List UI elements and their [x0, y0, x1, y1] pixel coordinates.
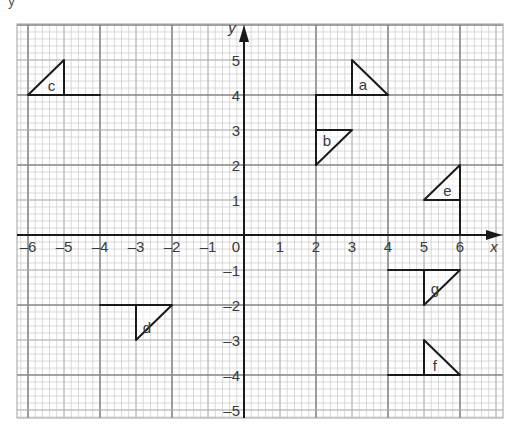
- triangle-outline: [424, 165, 460, 200]
- x-tick-label: –6: [20, 238, 37, 255]
- y-axis-label: y: [227, 19, 237, 36]
- triangle-outline: [424, 270, 460, 305]
- x-tick-label: –5: [56, 238, 73, 255]
- x-tick-label: –2: [164, 238, 181, 255]
- coordinate-grid-diagram: y –6–5–4–3–2–10123456xy12345–1–2–3–4–5 a…: [0, 0, 517, 430]
- y-tick-label: –2: [223, 297, 240, 314]
- x-tick-label: 0: [232, 238, 240, 255]
- triangle-outline: [136, 305, 172, 340]
- triangle-outline: [316, 130, 352, 165]
- y-tick-label: 4: [232, 87, 240, 104]
- triangle-g: g: [388, 270, 460, 305]
- y-tick-label: –4: [223, 367, 240, 384]
- triangle-b: b: [316, 130, 352, 165]
- triangle-label: g: [431, 280, 439, 297]
- triangle-outline: [28, 60, 64, 95]
- triangle-label: a: [359, 76, 368, 93]
- y-axis-arrow-icon: [239, 25, 249, 42]
- x-tick-label: –4: [92, 238, 109, 255]
- x-tick-label: 2: [312, 238, 320, 255]
- x-tick-label: 3: [348, 238, 356, 255]
- y-tick-label: 1: [232, 192, 240, 209]
- triangle-label: b: [323, 132, 331, 149]
- x-tick-label: –3: [128, 238, 145, 255]
- y-tick-label: 5: [232, 52, 240, 69]
- triangle-label: c: [48, 77, 56, 94]
- x-tick-label: 5: [420, 238, 428, 255]
- triangle-d: d: [100, 305, 172, 340]
- x-tick-label: 6: [456, 238, 464, 255]
- y-tick-label: 2: [232, 157, 240, 174]
- triangle-outline: [424, 340, 460, 375]
- triangle-c: c: [28, 60, 100, 95]
- x-tick-label: –1: [200, 238, 217, 255]
- x-tick-label: 4: [384, 238, 392, 255]
- y-tick-label: –1: [223, 262, 240, 279]
- triangle-label: e: [443, 182, 451, 199]
- triangle-outline: [352, 60, 388, 95]
- cropped-header-text: y: [8, 0, 15, 9]
- x-tick-label: 1: [276, 238, 284, 255]
- y-tick-label: 3: [232, 122, 240, 139]
- x-axis-label: x: [489, 238, 498, 255]
- triangle-label: d: [143, 319, 151, 336]
- triangle-e: e: [424, 165, 460, 235]
- y-tick-label: –3: [223, 332, 240, 349]
- y-tick-label: –5: [223, 402, 240, 419]
- triangle-f: f: [388, 340, 460, 375]
